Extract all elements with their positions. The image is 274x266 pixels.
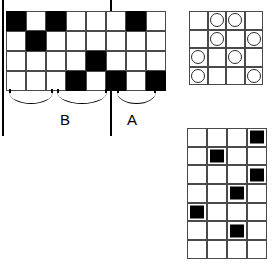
circle-marker-icon bbox=[247, 32, 261, 46]
circle-grid-cell-r4-c1 bbox=[189, 67, 208, 86]
square-marker-icon bbox=[250, 168, 264, 181]
checkerboard-cell-r3-c7 bbox=[126, 51, 146, 71]
label-b: B bbox=[60, 112, 71, 127]
square-marker-icon bbox=[210, 150, 224, 163]
square-grid-cell-r1-c4 bbox=[247, 128, 267, 147]
square-grid-cell-r4-c1 bbox=[187, 184, 207, 203]
label-a: A bbox=[127, 112, 138, 127]
square-grid-cell-r1-c2 bbox=[207, 128, 227, 147]
checkerboard-cell-r2-c5 bbox=[86, 31, 106, 51]
square-grid-cell-r6-c3 bbox=[227, 221, 247, 240]
circle-grid-cell-r1-c1 bbox=[189, 11, 208, 30]
circle-grid-cell-r4-c2 bbox=[208, 67, 227, 86]
left-vertical-rule bbox=[2, 0, 4, 136]
square-grid-cell-r6-c4 bbox=[247, 221, 267, 240]
checkerboard-cell-r4-c3 bbox=[46, 71, 66, 91]
inset-square-grid bbox=[187, 128, 267, 259]
circle-grid-cell-r2-c2 bbox=[208, 30, 227, 49]
square-grid-cell-r7-c4 bbox=[247, 240, 267, 259]
square-grid-cell-r3-c4 bbox=[247, 165, 267, 184]
square-grid-cell-r5-c2 bbox=[207, 203, 227, 222]
bracket-b-right bbox=[57, 92, 107, 104]
square-marker-icon bbox=[190, 206, 204, 219]
circle-grid-cell-r1-c4 bbox=[245, 11, 264, 30]
square-grid-cell-r5-c3 bbox=[227, 203, 247, 222]
square-grid-cell-r7-c2 bbox=[207, 240, 227, 259]
checkerboard-cell-r4-c6 bbox=[106, 71, 126, 91]
checkerboard-cell-r3-c2 bbox=[26, 51, 46, 71]
checkerboard-cell-r3-c1 bbox=[6, 51, 26, 71]
checkerboard-cell-r3-c8 bbox=[146, 51, 166, 71]
checkerboard-cell-r1-c5 bbox=[86, 11, 106, 31]
square-grid-cell-r4-c3 bbox=[227, 184, 247, 203]
circle-grid-cell-r3-c1 bbox=[189, 48, 208, 67]
circle-marker-icon bbox=[228, 13, 242, 27]
square-grid-cell-r7-c1 bbox=[187, 240, 207, 259]
bracket-a bbox=[117, 92, 156, 104]
bracket-b-left bbox=[9, 92, 53, 104]
circle-grid-cell-r3-c3 bbox=[226, 48, 245, 67]
circle-marker-icon bbox=[228, 50, 242, 64]
circle-grid-cell-r4-c3 bbox=[226, 67, 245, 86]
square-grid-cell-r5-c1 bbox=[187, 203, 207, 222]
square-grid-cell-r6-c1 bbox=[187, 221, 207, 240]
checkerboard-cell-r2-c3 bbox=[46, 31, 66, 51]
circle-grid-cell-r3-c4 bbox=[245, 48, 264, 67]
circle-grid-cell-r2-c4 bbox=[245, 30, 264, 49]
square-marker-icon bbox=[250, 131, 264, 144]
square-marker-icon bbox=[230, 224, 244, 237]
circle-grid-cell-r1-c3 bbox=[226, 11, 245, 30]
square-grid-cell-r2-c4 bbox=[247, 147, 267, 166]
checkerboard-cell-r4-c1 bbox=[6, 71, 26, 91]
checkerboard-cell-r2-c6 bbox=[106, 31, 126, 51]
checkerboard-cell-r3-c5 bbox=[86, 51, 106, 71]
circle-grid bbox=[189, 11, 263, 85]
checkerboard-cell-r1-c3 bbox=[46, 11, 66, 31]
checkerboard-cell-r2-c8 bbox=[146, 31, 166, 51]
checkerboard-cell-r4-c4 bbox=[66, 71, 86, 91]
checkerboard-cell-r1-c8 bbox=[146, 11, 166, 31]
figure-canvas: B A bbox=[0, 0, 274, 266]
checkerboard-cell-r1-c4 bbox=[66, 11, 86, 31]
checkerboard-cell-r1-c6 bbox=[106, 11, 126, 31]
checkerboard-cell-r1-c1 bbox=[6, 11, 26, 31]
circle-grid-cell-r1-c2 bbox=[208, 11, 227, 30]
square-grid-cell-r5-c4 bbox=[247, 203, 267, 222]
square-marker-icon bbox=[230, 187, 244, 200]
checkerboard-cell-r1-c7 bbox=[126, 11, 146, 31]
circle-marker-icon bbox=[191, 69, 205, 83]
square-grid-cell-r7-c3 bbox=[227, 240, 247, 259]
square-grid-cell-r6-c2 bbox=[207, 221, 227, 240]
circle-marker-icon bbox=[210, 13, 224, 27]
square-grid-cell-r1-c3 bbox=[227, 128, 247, 147]
checkerboard-cell-r4-c7 bbox=[126, 71, 146, 91]
square-grid-cell-r2-c1 bbox=[187, 147, 207, 166]
circle-grid-cell-r4-c4 bbox=[245, 67, 264, 86]
checkerboard-cell-r2-c1 bbox=[6, 31, 26, 51]
checkerboard-cell-r1-c2 bbox=[26, 11, 46, 31]
checkerboard-cell-r3-c3 bbox=[46, 51, 66, 71]
checkerboard-cell-r4-c8 bbox=[146, 71, 166, 91]
checkerboard-cell-r3-c4 bbox=[66, 51, 86, 71]
circle-grid-cell-r2-c3 bbox=[226, 30, 245, 49]
circle-grid-cell-r3-c2 bbox=[208, 48, 227, 67]
checkerboard-strip-grid bbox=[6, 11, 166, 91]
circle-marker-icon bbox=[210, 32, 224, 46]
checkerboard-cell-r4-c5 bbox=[86, 71, 106, 91]
checkerboard-cell-r2-c2 bbox=[26, 31, 46, 51]
square-grid-cell-r3-c3 bbox=[227, 165, 247, 184]
checkerboard-cell-r3-c6 bbox=[106, 51, 126, 71]
square-grid-cell-r4-c2 bbox=[207, 184, 227, 203]
checkerboard-cell-r2-c7 bbox=[126, 31, 146, 51]
checkerboard-cell-r2-c4 bbox=[66, 31, 86, 51]
checkerboard-cell-r4-c2 bbox=[26, 71, 46, 91]
square-grid-cell-r4-c4 bbox=[247, 184, 267, 203]
square-grid-cell-r3-c1 bbox=[187, 165, 207, 184]
circle-marker-icon bbox=[191, 50, 205, 64]
square-grid-cell-r2-c3 bbox=[227, 147, 247, 166]
square-grid-cell-r1-c1 bbox=[187, 128, 207, 147]
square-grid-cell-r3-c2 bbox=[207, 165, 227, 184]
square-grid-cell-r2-c2 bbox=[207, 147, 227, 166]
circle-grid-cell-r2-c1 bbox=[189, 30, 208, 49]
circle-marker-icon bbox=[247, 69, 261, 83]
